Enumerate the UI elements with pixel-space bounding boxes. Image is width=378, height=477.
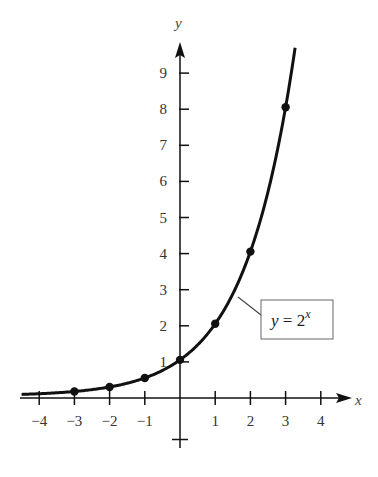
x-tick-label: 3	[282, 413, 290, 429]
y-tick-label: 9	[160, 65, 168, 81]
x-tick-label: −4	[31, 413, 47, 429]
callout-text: y = 2x	[269, 307, 311, 330]
y-tick-label: 5	[160, 210, 168, 226]
y-tick-label: 7	[160, 137, 168, 153]
data-point	[246, 247, 254, 255]
y-tick-label: 3	[160, 282, 168, 298]
data-point	[141, 374, 149, 382]
data-point	[70, 387, 78, 395]
data-point	[176, 356, 184, 364]
ticks: −4−3−2−11234123456789	[31, 65, 325, 429]
data-point	[211, 320, 219, 328]
x-tick-label: 1	[211, 413, 219, 429]
y-tick-label: 4	[160, 246, 168, 262]
axes	[20, 42, 352, 448]
x-axis-label: x	[354, 392, 362, 408]
x-tick-label: 4	[317, 413, 325, 429]
y-tick-label: 6	[160, 173, 168, 189]
callout-leader-line	[238, 297, 261, 315]
exponential-chart: −4−3−2−11234123456789 y = 2x x y	[0, 0, 378, 477]
x-tick-label: −3	[66, 413, 82, 429]
y-tick-label: 8	[160, 101, 168, 117]
x-tick-label: −1	[137, 413, 153, 429]
curve-2-pow-x	[22, 48, 296, 395]
function-label-callout: y = 2x	[238, 297, 333, 339]
x-tick-label: 2	[247, 413, 255, 429]
x-tick-label: −2	[102, 413, 118, 429]
data-point	[105, 383, 113, 391]
y-tick-label: 2	[160, 318, 168, 334]
y-axis-label: y	[173, 15, 182, 31]
data-point	[281, 103, 289, 111]
